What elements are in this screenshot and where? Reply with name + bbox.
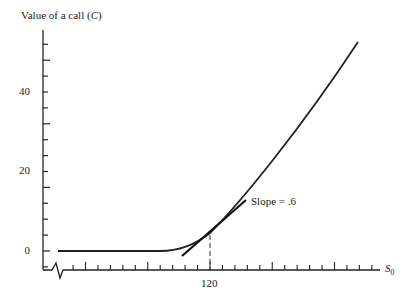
x-axis-label-sub: 0 (391, 268, 395, 277)
ytick-label-0: 0 (6, 244, 30, 256)
y-axis-label: Value of a call (C) (21, 9, 102, 21)
call-value-curve (58, 42, 358, 251)
xtick-label-120: 120 (201, 277, 218, 289)
ytick-label-20: 20 (6, 164, 30, 176)
slope-annotation: Slope = .6 (251, 195, 296, 207)
x-axis-ticks (73, 262, 372, 270)
plot-area (0, 0, 413, 297)
y-axis-label-var: C (91, 9, 98, 21)
y-axis-label-text: Value of a call ( (21, 9, 91, 21)
x-axis (43, 263, 380, 278)
x-axis-label: S0 (385, 262, 395, 277)
tangent-line (182, 200, 246, 256)
ytick-label-40: 40 (6, 85, 30, 97)
y-axis-ticks (43, 44, 50, 267)
y-axis-label-close: ) (98, 9, 102, 21)
call-value-chart: Value of a call (C) 40 20 0 120 S0 Slope… (0, 0, 413, 297)
